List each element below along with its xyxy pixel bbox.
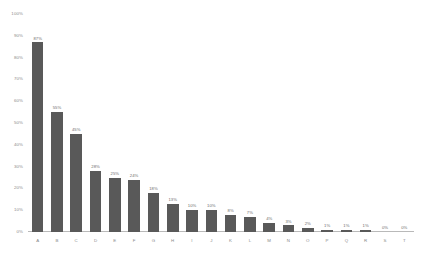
bar[interactable] xyxy=(148,193,160,232)
plot-area: 87%55%45%28%25%24%18%13%10%10%8%7%4%3%2%… xyxy=(28,14,414,232)
bar-slot: 0% xyxy=(395,14,414,232)
x-tick-label: J xyxy=(202,234,221,248)
bar[interactable] xyxy=(206,210,218,232)
bar-slot: 55% xyxy=(47,14,66,232)
bar[interactable] xyxy=(128,180,140,232)
x-tick-label: D xyxy=(86,234,105,248)
bar-chart: 0%10%20%30%40%50%60%70%80%90%100% 87%55%… xyxy=(0,0,422,258)
bar-value-label: 28% xyxy=(91,165,100,169)
bar-slot: 87% xyxy=(28,14,47,232)
y-tick-label: 0% xyxy=(16,230,23,234)
bar-value-label: 1% xyxy=(343,224,349,228)
bar-value-label: 18% xyxy=(149,187,158,191)
bar-value-label: 45% xyxy=(72,128,81,132)
bar-slot: 2% xyxy=(298,14,317,232)
y-tick-label: 10% xyxy=(14,208,23,212)
bar-slot: 1% xyxy=(337,14,356,232)
bar-slot: 0% xyxy=(375,14,394,232)
bar[interactable] xyxy=(186,210,198,232)
y-tick-label: 20% xyxy=(14,186,23,190)
bar[interactable] xyxy=(283,225,295,232)
bar-slot: 10% xyxy=(202,14,221,232)
x-tick-label: M xyxy=(260,234,279,248)
bar-slot: 10% xyxy=(182,14,201,232)
y-tick-label: 60% xyxy=(14,99,23,103)
x-tick-label: E xyxy=(105,234,124,248)
bar-value-label: 0% xyxy=(382,226,388,230)
y-tick-label: 90% xyxy=(14,34,23,38)
bar-value-label: 24% xyxy=(130,174,139,178)
bar[interactable] xyxy=(263,223,275,232)
bar[interactable] xyxy=(90,171,102,232)
x-tick-label: L xyxy=(240,234,259,248)
bar-series: 87%55%45%28%25%24%18%13%10%10%8%7%4%3%2%… xyxy=(28,14,414,232)
bar-slot: 13% xyxy=(163,14,182,232)
y-tick-label: 80% xyxy=(14,55,23,59)
x-tick-label: P xyxy=(317,234,336,248)
bar-value-label: 87% xyxy=(33,37,42,41)
bar-value-label: 10% xyxy=(207,204,216,208)
y-tick-label: 70% xyxy=(14,77,23,81)
x-tick-label: F xyxy=(124,234,143,248)
bar-value-label: 8% xyxy=(228,209,234,213)
bar-slot: 4% xyxy=(260,14,279,232)
x-tick-label: R xyxy=(356,234,375,248)
bar-slot: 25% xyxy=(105,14,124,232)
x-tick-label: N xyxy=(279,234,298,248)
bar-value-label: 0% xyxy=(401,226,407,230)
x-tick-label: A xyxy=(28,234,47,248)
bar-slot: 24% xyxy=(124,14,143,232)
bar-slot: 3% xyxy=(279,14,298,232)
bar-value-label: 10% xyxy=(188,204,197,208)
bar[interactable] xyxy=(341,230,353,232)
y-axis: 0%10%20%30%40%50%60%70%80%90%100% xyxy=(0,14,26,232)
bar-slot: 1% xyxy=(356,14,375,232)
bar[interactable] xyxy=(109,178,121,233)
bar[interactable] xyxy=(167,204,179,232)
x-tick-label: I xyxy=(182,234,201,248)
bar-slot: 28% xyxy=(86,14,105,232)
bar-slot: 8% xyxy=(221,14,240,232)
bar-value-label: 3% xyxy=(285,220,291,224)
bar[interactable] xyxy=(32,42,44,232)
bar-value-label: 55% xyxy=(53,106,62,110)
bar[interactable] xyxy=(321,230,333,232)
bar-value-label: 25% xyxy=(111,172,120,176)
x-tick-label: O xyxy=(298,234,317,248)
x-tick-label: T xyxy=(395,234,414,248)
bar-value-label: 4% xyxy=(266,217,272,221)
x-tick-label: S xyxy=(375,234,394,248)
bar-value-label: 13% xyxy=(168,198,177,202)
x-tick-label: B xyxy=(47,234,66,248)
bar[interactable] xyxy=(302,228,314,232)
bar-value-label: 1% xyxy=(363,224,369,228)
bar-value-label: 1% xyxy=(324,224,330,228)
bar[interactable] xyxy=(225,215,237,232)
x-tick-label: H xyxy=(163,234,182,248)
x-tick-label: C xyxy=(67,234,86,248)
bar-slot: 45% xyxy=(67,14,86,232)
y-tick-label: 50% xyxy=(14,121,23,125)
bar[interactable] xyxy=(70,134,82,232)
x-axis: ABCDEFGHIJKLMNOPQRST xyxy=(28,234,414,248)
x-tick-label: G xyxy=(144,234,163,248)
bar-value-label: 7% xyxy=(247,211,253,215)
bar-slot: 7% xyxy=(240,14,259,232)
bar-value-label: 2% xyxy=(305,222,311,226)
bar-slot: 18% xyxy=(144,14,163,232)
y-tick-label: 30% xyxy=(14,164,23,168)
bar[interactable] xyxy=(360,230,372,232)
bar-slot: 1% xyxy=(317,14,336,232)
x-tick-label: Q xyxy=(337,234,356,248)
x-tick-label: K xyxy=(221,234,240,248)
bar[interactable] xyxy=(51,112,63,232)
bar[interactable] xyxy=(244,217,256,232)
y-tick-label: 100% xyxy=(11,12,23,16)
y-tick-label: 40% xyxy=(14,143,23,147)
